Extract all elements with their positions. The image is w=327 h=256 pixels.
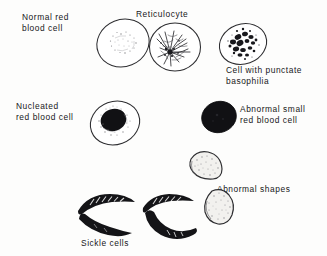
sickle-cell-lower-left [74, 209, 142, 243]
label-abnormal-small-red-blood-cell: Abnormal small red blood cell [240, 104, 305, 125]
label-nucleated-red-blood-cell: Nucleated red blood cell [16, 101, 74, 122]
cell-with-punctate-basophilia [216, 20, 270, 68]
sickle-cell-lower-right [139, 207, 207, 243]
abnormal-shape-upper [184, 148, 230, 188]
label-normal-red-blood-cell: Normal red blood cell [22, 12, 69, 33]
reticulocyte [146, 19, 204, 75]
abnormal-small-red-blood-cell [198, 97, 240, 137]
nucleated-red-blood-cell [86, 96, 144, 150]
label-cell-with-punctate-basophilia: Cell with punctate basophilia [226, 65, 302, 86]
blood-cell-figure: Normal red blood cell Reticulocyte Cell … [0, 0, 327, 256]
normal-red-blood-cell [93, 14, 153, 72]
